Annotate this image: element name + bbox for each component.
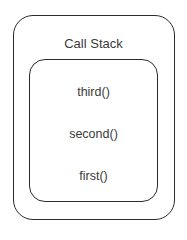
- stack-frame-third: third(): [0, 86, 187, 99]
- call-stack-title: Call Stack: [0, 37, 187, 50]
- stack-frame-second: second(): [0, 128, 187, 141]
- stack-frame-first: first(): [0, 170, 187, 183]
